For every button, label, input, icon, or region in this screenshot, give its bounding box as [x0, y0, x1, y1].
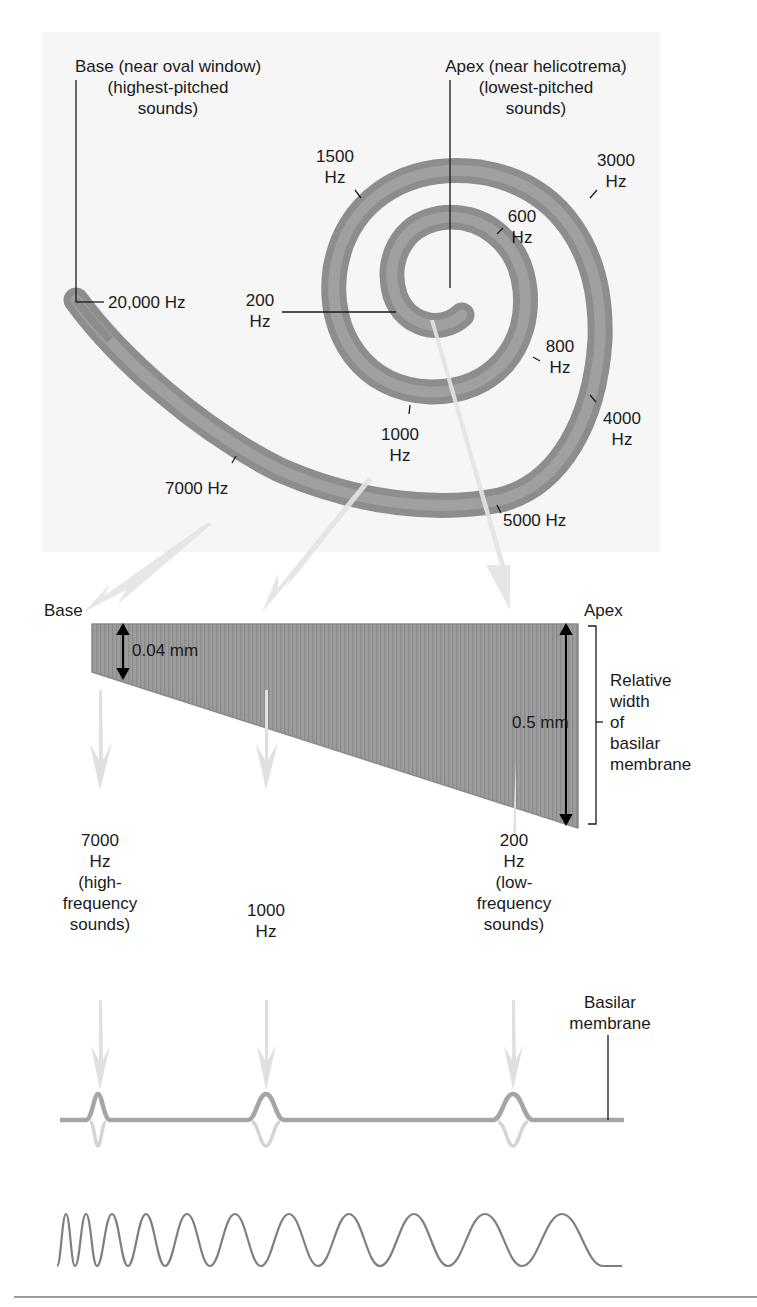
bottom-divider [14, 1296, 757, 1298]
response-label-7000: 7000Hz(high-frequencysounds) [50, 830, 150, 935]
apex-label-line1: Apex (near helicotrema) [420, 56, 652, 77]
basilar-membrane-label: Basilarmembrane [565, 992, 655, 1034]
base-label-line1: Base (near oval window) [52, 56, 284, 77]
membrane-apex-label: Apex [584, 600, 623, 621]
apex-region-label: Apex (near helicotrema) (lowest-pitched … [420, 56, 652, 119]
freq-label-7000: 7000 Hz [165, 478, 228, 499]
base-width-label: 0.04 mm [132, 640, 198, 661]
freq-label-5000: 5000 Hz [503, 510, 566, 531]
response-label-1000: 1000Hz [226, 900, 306, 942]
freq-label-1500: 1500Hz [310, 146, 360, 188]
freq-label-600: 600Hz [502, 206, 542, 248]
freq-label-1000: 1000Hz [374, 424, 426, 466]
base-region-label: Base (near oval window) (highest-pitched… [52, 56, 284, 119]
freq-label-3000: 3000Hz [590, 150, 642, 192]
response-label-200: 200Hz(low-frequencysounds) [464, 830, 564, 935]
apex-width-label: 0.5 mm [512, 712, 569, 733]
sound-waveform [57, 1214, 622, 1266]
apex-label-line2: (lowest-pitched [420, 77, 652, 98]
apex-label-line3: sounds) [420, 98, 652, 119]
base-label-line3: sounds) [52, 98, 284, 119]
relative-width-label: Relative width of basilar membrane [610, 670, 691, 775]
freq-label-200: 200Hz [240, 290, 280, 332]
width-bracket [588, 626, 603, 824]
diagram-artwork [0, 0, 757, 1307]
freq-label-20000: 20,000 Hz [108, 292, 186, 313]
freq-label-800: 800Hz [540, 336, 580, 378]
freq-label-4000: 4000Hz [596, 408, 648, 450]
membrane-base-label: Base [44, 600, 83, 621]
displacement-waveform [60, 1035, 624, 1146]
base-label-line2: (highest-pitched [52, 77, 284, 98]
